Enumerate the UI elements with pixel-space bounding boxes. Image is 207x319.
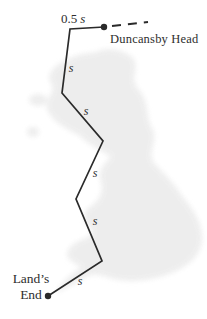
start-point-label: Land’s End <box>8 271 54 303</box>
route-diagram: 0.5s s s s s s Duncansby Head Land’s End <box>0 0 207 319</box>
half-segment-label: 0.5s <box>61 12 85 25</box>
segment-length-label: s <box>93 215 98 227</box>
britain-map-silhouette <box>47 49 203 293</box>
segment-length-label: s <box>69 62 74 74</box>
segment-length-label: s <box>93 167 98 179</box>
continuation-dashed-line <box>112 22 148 26</box>
end-point-label: Duncansby Head <box>110 33 199 46</box>
island-blob-icon <box>27 127 39 137</box>
start-point-label-line1: Land’s <box>8 271 54 287</box>
half-segment-symbol: s <box>80 11 85 26</box>
duncansby-head-point <box>101 24 107 30</box>
half-segment-value: 0.5 <box>61 11 77 26</box>
segment-length-label: s <box>78 275 83 287</box>
start-point-label-line2: End <box>8 287 54 303</box>
island-blob-icon <box>29 94 47 106</box>
segment-length-label: s <box>84 105 89 117</box>
